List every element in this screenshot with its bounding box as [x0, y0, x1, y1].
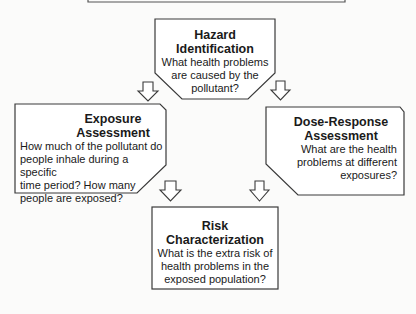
dose-title-line2: Assessment: [285, 129, 397, 143]
diagram-canvas: Hazard Identification What health proble…: [0, 0, 416, 314]
dose-title-line1: Dose-Response: [285, 115, 397, 129]
exposure-body-line1: How much of the pollutant do: [20, 140, 166, 153]
hazard-identification-text: Hazard Identification What health proble…: [155, 28, 275, 95]
hazard-body-line3: pollutant?: [155, 82, 275, 95]
exposure-body-line3: time period? How many: [20, 179, 166, 192]
arrow-down-icon: [250, 181, 269, 201]
dose-response-assessment-text: Dose-Response Assessment What are the he…: [285, 115, 397, 182]
exposure-body-line4: people are exposed?: [20, 192, 166, 205]
hazard-title-line1: Hazard: [155, 28, 275, 42]
risk-characterization-text: Risk Characterization What is the extra …: [152, 219, 278, 286]
hazard-body-line1: What health problems: [155, 56, 275, 69]
exposure-title-line1: Exposure: [20, 112, 166, 126]
exposure-assessment-text: Exposure Assessment How much of the poll…: [20, 112, 166, 205]
risk-title-line1: Risk: [152, 219, 278, 233]
risk-body-line2: health problems in the: [152, 260, 278, 273]
dose-body-line3: exposures?: [285, 169, 397, 182]
exposure-body-line2: people inhale during a specific: [20, 153, 166, 179]
hazard-title-line2: Identification: [155, 42, 275, 56]
risk-title-line2: Characterization: [152, 233, 278, 247]
exposure-title-line2: Assessment: [20, 126, 166, 140]
top-cropped-box-edge: [88, 0, 345, 2]
dose-body-line1: What are the health: [285, 143, 397, 156]
hazard-body-line2: are caused by the: [155, 69, 275, 82]
risk-body-line1: What is the extra risk of: [152, 247, 278, 260]
risk-body-line3: exposed population?: [152, 273, 278, 286]
dose-body-line2: problems at different: [285, 156, 397, 169]
